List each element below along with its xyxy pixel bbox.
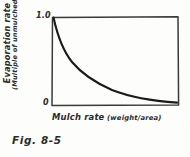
- decay-curve: [54, 18, 178, 103]
- x-axis-label-unit: (weight/area): [104, 114, 161, 122]
- y-axis-tick-top: 1.0: [36, 11, 51, 20]
- x-axis-label-main: Mulch rate: [52, 112, 104, 122]
- x-axis-label: Mulch rate (weight/area): [52, 112, 184, 122]
- figure-caption: Fig. 8-5: [12, 134, 62, 146]
- y-axis-tick-bottom: 0: [43, 98, 49, 107]
- figure-container: Evaporation rate (Multiple of unmulched)…: [0, 0, 190, 157]
